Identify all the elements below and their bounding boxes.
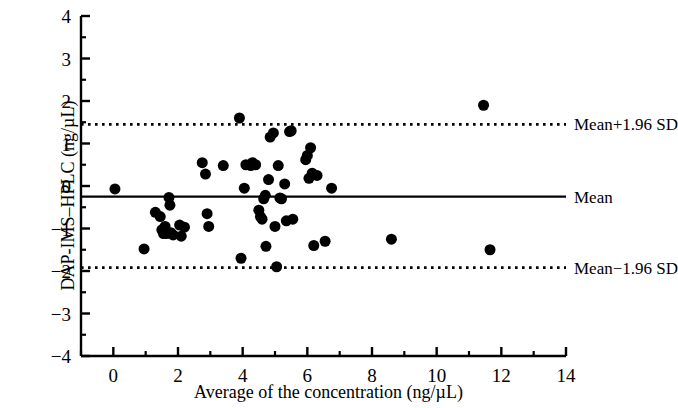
data-point	[268, 127, 279, 138]
data-point	[200, 169, 211, 180]
data-point	[202, 208, 213, 219]
data-point	[279, 178, 290, 189]
data-point	[485, 244, 496, 255]
data-point	[179, 222, 190, 233]
data-point	[234, 113, 245, 124]
data-point	[109, 183, 120, 194]
x-axis-title: Average of the concentration (ng/µL)	[0, 382, 657, 403]
data-point	[236, 253, 247, 264]
data-point	[270, 221, 281, 232]
lower-limit-of-agreement-label: Mean−1.96 SD	[574, 259, 678, 276]
data-point	[326, 183, 337, 194]
mean-line-label: Mean	[574, 188, 613, 205]
data-point	[263, 174, 274, 185]
data-point	[478, 100, 489, 111]
data-point	[197, 157, 208, 168]
data-point	[203, 221, 214, 232]
y-tick-label: −4	[35, 347, 71, 366]
y-tick-label: 4	[35, 7, 71, 26]
data-point	[164, 200, 175, 211]
data-point	[312, 170, 323, 181]
data-point	[250, 159, 261, 170]
data-point	[305, 142, 316, 153]
data-point	[257, 214, 268, 225]
data-point	[276, 193, 287, 204]
data-point	[286, 125, 297, 136]
upper-limit-of-agreement-label: Mean+1.96 SD	[574, 116, 678, 133]
data-point	[386, 234, 397, 245]
data-point	[273, 160, 284, 171]
data-point	[139, 243, 150, 254]
axis-spines	[81, 16, 566, 356]
data-point	[287, 214, 298, 225]
data-point	[218, 160, 229, 171]
data-point	[320, 236, 331, 247]
y-axis-title: DAP-IMS–HPLC (ng/µL)	[58, 46, 79, 346]
data-point	[308, 240, 319, 251]
axis-ticks	[81, 16, 566, 356]
data-point	[239, 183, 250, 194]
data-point	[155, 211, 166, 222]
data-point	[271, 261, 282, 272]
data-point	[260, 241, 271, 252]
data-point	[260, 190, 271, 201]
